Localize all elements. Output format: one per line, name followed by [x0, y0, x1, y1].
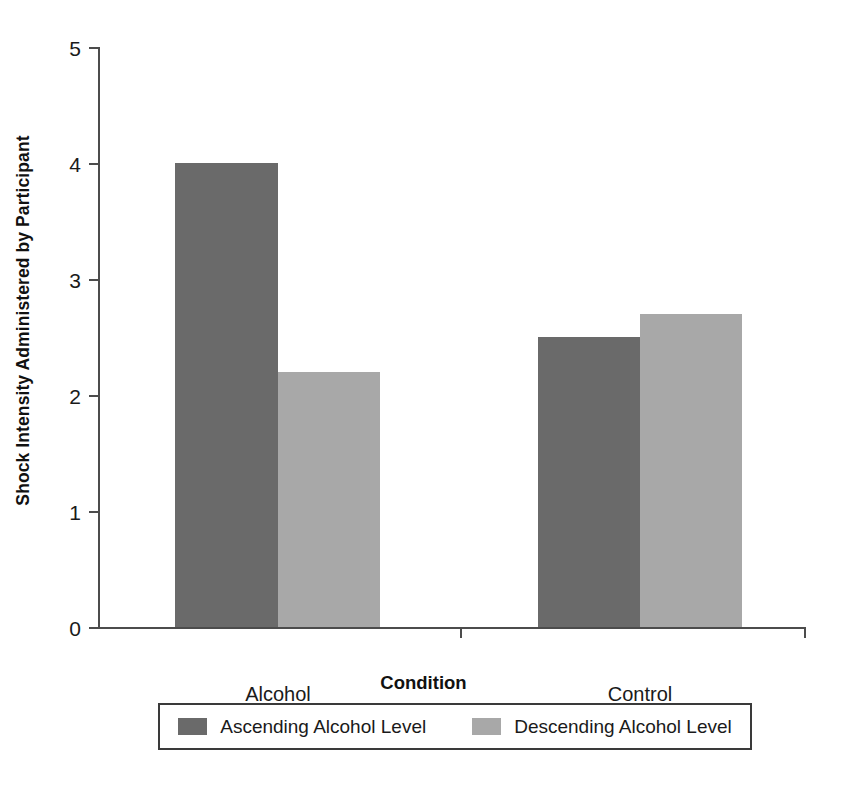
plot-area: 5 4 3 2 1 0 Alcohol Cont	[98, 47, 806, 627]
x-tick-end	[804, 627, 806, 638]
y-tick-mark	[89, 47, 98, 49]
bar-control-descending	[640, 314, 742, 627]
y-tick-label: 5	[69, 38, 81, 59]
bar-alcohol-ascending	[175, 163, 278, 627]
y-tick-2: 2	[89, 395, 98, 397]
legend-item-descending: Descending Alcohol Level	[472, 716, 732, 738]
chart-legend: Ascending Alcohol Level Descending Alcoh…	[158, 703, 752, 750]
legend-swatch-icon	[472, 718, 501, 735]
y-tick-5: 5	[89, 47, 98, 49]
y-tick-3: 3	[89, 279, 98, 281]
x-axis-title: Condition	[0, 672, 847, 694]
y-axis-title: Shock Intensity Administered by Particip…	[0, 0, 46, 640]
legend-swatch-icon	[178, 718, 207, 735]
y-axis-title-label: Shock Intensity Administered by Particip…	[13, 135, 34, 505]
y-tick-1: 1	[89, 511, 98, 513]
legend-item-ascending: Ascending Alcohol Level	[178, 716, 426, 738]
x-tick-divider	[460, 627, 462, 638]
y-tick-mark	[89, 395, 98, 397]
y-tick-0: 0	[89, 627, 98, 629]
y-tick-label: 0	[69, 618, 81, 639]
y-axis-line	[98, 47, 100, 627]
bar-chart-figure: Shock Intensity Administered by Particip…	[0, 0, 847, 786]
bar-alcohol-descending	[278, 372, 380, 627]
y-tick-mark	[89, 511, 98, 513]
x-axis-line	[98, 627, 806, 629]
y-tick-label: 3	[69, 270, 81, 291]
y-tick-mark	[89, 279, 98, 281]
y-tick-mark	[89, 163, 98, 165]
y-tick-label: 2	[69, 386, 81, 407]
legend-label: Descending Alcohol Level	[514, 716, 732, 738]
y-tick-mark	[89, 627, 98, 629]
legend-label: Ascending Alcohol Level	[220, 716, 426, 738]
y-tick-label: 1	[69, 502, 81, 523]
figure-caption	[8, 772, 708, 786]
y-tick-label: 4	[69, 154, 81, 175]
bar-control-ascending	[538, 337, 640, 627]
y-tick-4: 4	[89, 163, 98, 165]
